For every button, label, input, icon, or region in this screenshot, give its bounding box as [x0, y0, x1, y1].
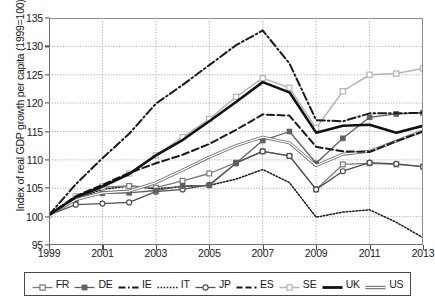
- x-tick-mark: [209, 245, 210, 250]
- legend-item-uk[interactable]: UK: [322, 279, 360, 290]
- legend-key-es-icon: [236, 279, 257, 290]
- y-tick-mark: [45, 159, 49, 160]
- legend-item-se[interactable]: SE: [279, 279, 317, 290]
- legend-label: DE: [98, 279, 112, 290]
- legend-label: IT: [181, 279, 190, 290]
- legend-label: FR: [56, 279, 70, 290]
- legend-item-us[interactable]: US: [365, 279, 403, 290]
- plot-frame: [49, 18, 423, 245]
- legend-label: JP: [219, 279, 231, 290]
- legend-key-fr-icon: [32, 279, 53, 290]
- y-tick-mark: [45, 131, 49, 132]
- x-axis-tick-labels: 19992001200320052007200920112013: [0, 248, 435, 264]
- y-tick-mark: [45, 103, 49, 104]
- y-tick-mark: [45, 17, 49, 18]
- x-tick-mark: [316, 245, 317, 250]
- y-tick-mark: [45, 216, 49, 217]
- legend-label: UK: [346, 279, 360, 290]
- legend-key-us-icon: [365, 279, 386, 290]
- y-axis-title: Index of real GDP growth per capita (199…: [15, 0, 26, 222]
- y-tick-mark: [45, 74, 49, 75]
- y-tick-mark: [45, 46, 49, 47]
- legend-label: US: [389, 279, 403, 290]
- plot-area: [49, 18, 423, 245]
- x-tick-mark: [370, 245, 371, 250]
- y-tick-mark: [45, 188, 49, 189]
- legend-label: ES: [260, 279, 274, 290]
- legend-label: IE: [142, 279, 152, 290]
- legend-key-se-icon: [279, 279, 300, 290]
- x-tick-mark: [49, 245, 50, 250]
- legend-key-de-icon: [74, 279, 95, 290]
- legend-item-de[interactable]: DE: [74, 279, 112, 290]
- legend-key-it-icon: [157, 279, 178, 290]
- legend-item-fr[interactable]: FR: [32, 279, 70, 290]
- x-tick-mark: [263, 245, 264, 250]
- chart-legend: FRDEIEITJPESSEUKUS: [24, 272, 411, 296]
- legend-key-jp-icon: [195, 279, 216, 290]
- legend-item-ie[interactable]: IE: [118, 279, 152, 290]
- legend-label: SE: [303, 279, 317, 290]
- gdp-index-chart-figure: 95100105110115120125130135 Index of real…: [0, 0, 435, 306]
- legend-key-ie-icon: [118, 279, 139, 290]
- legend-item-es[interactable]: ES: [236, 279, 274, 290]
- legend-item-jp[interactable]: JP: [195, 279, 231, 290]
- x-tick-mark: [102, 245, 103, 250]
- legend-key-uk-icon: [322, 279, 343, 290]
- x-tick-mark: [423, 245, 424, 250]
- x-tick-mark: [156, 245, 157, 250]
- legend-item-it[interactable]: IT: [157, 279, 190, 290]
